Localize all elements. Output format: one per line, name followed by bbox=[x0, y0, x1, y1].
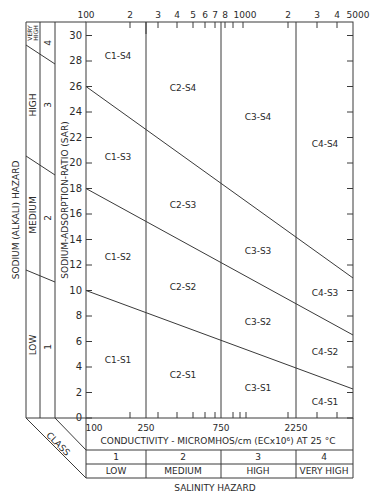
boundary-s1-s2 bbox=[86, 291, 353, 390]
svg-text:22: 22 bbox=[69, 132, 82, 143]
svg-text:LOW: LOW bbox=[106, 466, 127, 476]
svg-text:C3-S2: C3-S2 bbox=[245, 317, 272, 327]
svg-text:C4-S4: C4-S4 bbox=[312, 139, 339, 149]
svg-text:CLASS: CLASS bbox=[44, 430, 72, 458]
svg-text:4: 4 bbox=[334, 10, 340, 20]
sar-boundaries bbox=[86, 87, 353, 390]
svg-text:16: 16 bbox=[69, 208, 82, 219]
svg-text:24: 24 bbox=[69, 106, 82, 117]
svg-text:2: 2 bbox=[285, 10, 291, 20]
svg-text:C4-S3: C4-S3 bbox=[312, 288, 339, 298]
svg-text:VERY HIGH: VERY HIGH bbox=[299, 466, 348, 476]
svg-text:C1-S4: C1-S4 bbox=[105, 51, 132, 61]
svg-text:30: 30 bbox=[69, 30, 82, 41]
svg-text:14: 14 bbox=[69, 234, 82, 245]
svg-text:7: 7 bbox=[212, 10, 218, 20]
svg-text:100: 100 bbox=[85, 423, 102, 433]
svg-text:8: 8 bbox=[222, 10, 228, 20]
svg-text:1: 1 bbox=[43, 344, 53, 350]
svg-text:12: 12 bbox=[69, 259, 82, 270]
conductivity-boundaries bbox=[146, 22, 296, 418]
svg-text:5: 5 bbox=[190, 10, 196, 20]
svg-text:4: 4 bbox=[76, 361, 82, 372]
svg-text:HIGH: HIGH bbox=[246, 466, 269, 476]
svg-text:2250: 2250 bbox=[285, 423, 308, 433]
region-labels: C1-S4 C2-S4 C3-S4 C4-S4 C1-S3 C2-S3 C3-S… bbox=[105, 51, 339, 407]
svg-text:3: 3 bbox=[43, 102, 53, 108]
svg-text:C2-S1: C2-S1 bbox=[170, 370, 197, 380]
svg-text:5000: 5000 bbox=[347, 10, 370, 20]
svg-text:100: 100 bbox=[77, 10, 94, 20]
svg-text:28: 28 bbox=[69, 55, 82, 66]
svg-text:10: 10 bbox=[69, 285, 82, 296]
svg-text:HIGH: HIGH bbox=[28, 93, 38, 116]
bottom-axis: 100 250 750 2250 bbox=[85, 412, 337, 433]
svg-text:750: 750 bbox=[212, 423, 229, 433]
salinity-sodium-diagram: 100 2 3 4 5 6 7 8 1000 2 3 4 5000 100 25… bbox=[0, 0, 372, 501]
svg-text:HIGH: HIGH bbox=[32, 25, 39, 40]
svg-text:1: 1 bbox=[113, 452, 119, 462]
svg-text:2: 2 bbox=[127, 10, 133, 20]
svg-text:C1-S1: C1-S1 bbox=[105, 355, 132, 365]
svg-text:8: 8 bbox=[76, 310, 82, 321]
svg-text:6: 6 bbox=[76, 336, 82, 347]
svg-text:C1-S2: C1-S2 bbox=[105, 252, 132, 262]
svg-text:18: 18 bbox=[69, 183, 82, 194]
svg-text:SALINITY HAZARD: SALINITY HAZARD bbox=[174, 483, 255, 493]
svg-text:4: 4 bbox=[321, 452, 327, 462]
svg-text:C2-S4: C2-S4 bbox=[170, 83, 197, 93]
svg-text:C1-S3: C1-S3 bbox=[105, 152, 132, 162]
svg-text:4: 4 bbox=[174, 10, 180, 20]
svg-text:C2-S2: C2-S2 bbox=[170, 282, 197, 292]
svg-text:C3-S1: C3-S1 bbox=[245, 383, 272, 393]
svg-text:2: 2 bbox=[76, 387, 82, 398]
svg-text:C2-S3: C2-S3 bbox=[170, 200, 197, 210]
svg-text:3: 3 bbox=[314, 10, 320, 20]
svg-text:1000: 1000 bbox=[234, 10, 257, 20]
svg-text:4: 4 bbox=[43, 40, 53, 46]
svg-text:C3-S3: C3-S3 bbox=[245, 246, 272, 256]
svg-text:MEDIUM: MEDIUM bbox=[164, 466, 201, 476]
boundary-s3-s4 bbox=[86, 87, 353, 279]
svg-text:3: 3 bbox=[155, 10, 161, 20]
svg-text:LOW: LOW bbox=[28, 335, 38, 356]
svg-text:C4-S2: C4-S2 bbox=[312, 347, 339, 357]
svg-text:26: 26 bbox=[69, 81, 82, 92]
svg-text:2: 2 bbox=[180, 452, 186, 462]
svg-text:CONDUCTIVITY - MICROMHOS/cm (E: CONDUCTIVITY - MICROMHOS/cm (ECx10⁶) AT … bbox=[101, 436, 336, 446]
svg-text:SODIUM (ALKALI) HAZARD: SODIUM (ALKALI) HAZARD bbox=[11, 161, 21, 280]
svg-text:20: 20 bbox=[69, 157, 82, 168]
svg-text:SODIUM-ADSORPTION-RATIO (SAR): SODIUM-ADSORPTION-RATIO (SAR) bbox=[60, 121, 70, 278]
svg-text:MEDIUM: MEDIUM bbox=[28, 196, 38, 233]
svg-text:6: 6 bbox=[202, 10, 208, 20]
svg-text:C4-S1: C4-S1 bbox=[312, 397, 339, 407]
svg-text:250: 250 bbox=[137, 423, 154, 433]
svg-text:C3-S4: C3-S4 bbox=[245, 112, 272, 122]
svg-text:2: 2 bbox=[43, 215, 53, 221]
svg-text:3: 3 bbox=[255, 452, 261, 462]
